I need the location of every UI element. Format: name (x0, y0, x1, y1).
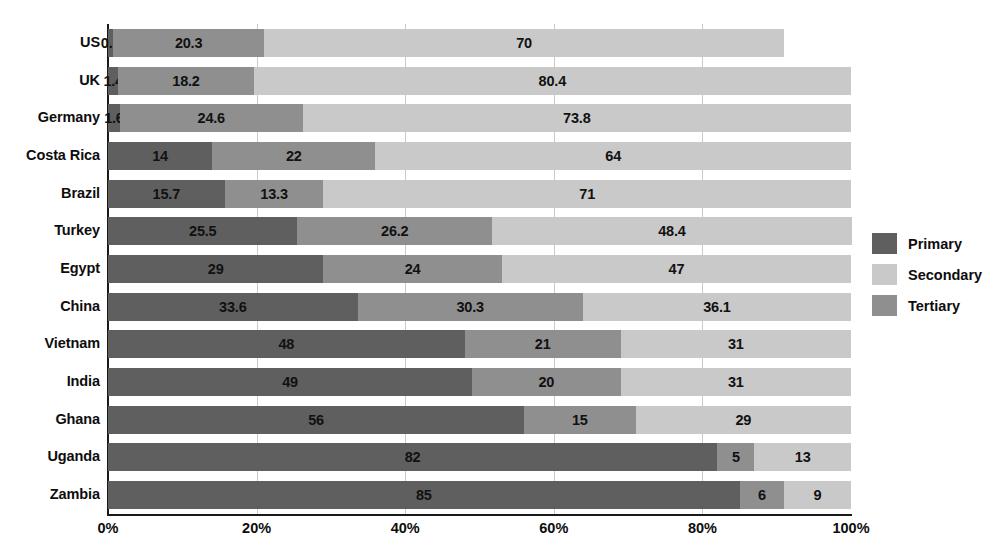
bar-segment-tertiary[interactable]: 47 (502, 255, 851, 283)
stacked-bar-chart: USUKGermanyCosta RicaBrazilTurkeyEgyptCh… (0, 0, 1008, 559)
legend-swatch-icon (872, 233, 897, 254)
legend-item[interactable]: Tertiary (872, 290, 1002, 321)
bar-segment-secondary[interactable]: 24 (323, 255, 501, 283)
bar-segment-value: 82 (405, 449, 421, 465)
x-axis-tick-label: 60% (539, 520, 568, 536)
plot-area: 0.720.3701.418.280.41.624.673.814226415.… (108, 24, 851, 514)
category-label: China (0, 298, 100, 314)
bar-segment-primary[interactable]: 48 (108, 330, 465, 358)
bar-segment-value: 48.4 (658, 223, 685, 239)
category-axis-labels: USUKGermanyCosta RicaBrazilTurkeyEgyptCh… (0, 24, 100, 514)
bar-segment-secondary[interactable]: 13.3 (225, 180, 324, 208)
bar-segment-value: 26.2 (381, 223, 408, 239)
bar-segment-tertiary[interactable]: 9 (784, 481, 851, 509)
bar-segment-value: 20 (538, 374, 554, 390)
bar-segment-primary[interactable]: 25.5 (108, 217, 297, 245)
bar-row[interactable]: 292447 (108, 255, 851, 283)
bar-segment-secondary[interactable]: 24.6 (120, 104, 303, 132)
bar-segment-tertiary[interactable]: 36.1 (583, 293, 851, 321)
bar-segment-secondary[interactable]: 5 (717, 443, 754, 471)
bar-row[interactable]: 1.624.673.8 (108, 104, 851, 132)
bar-segment-secondary[interactable]: 15 (524, 406, 635, 434)
bar-segment-primary[interactable]: 29 (108, 255, 323, 283)
bar-segment-value: 25.5 (189, 223, 216, 239)
bar-segment-tertiary[interactable]: 48.4 (492, 217, 852, 245)
bar-segment-secondary[interactable]: 6 (740, 481, 785, 509)
bar-segment-tertiary[interactable]: 73.8 (303, 104, 851, 132)
bar-row[interactable]: 142264 (108, 142, 851, 170)
legend-item[interactable]: Primary (872, 228, 1002, 259)
bar-row[interactable]: 82513 (108, 443, 851, 471)
bar-segment-value: 49 (282, 374, 298, 390)
bar-segment-value: 18.2 (172, 73, 199, 89)
x-axis-tick-label: 0% (98, 520, 119, 536)
bar-segment-value: 30.3 (456, 299, 483, 315)
x-axis-tick-label: 80% (688, 520, 717, 536)
bar-segment-value: 31 (728, 374, 744, 390)
bar-segment-secondary[interactable]: 20.3 (113, 29, 264, 57)
bar-segment-value: 13.3 (260, 186, 287, 202)
bar-segment-value: 36.1 (703, 299, 730, 315)
bar-segment-secondary[interactable]: 30.3 (358, 293, 583, 321)
bar-segment-tertiary[interactable]: 31 (621, 330, 851, 358)
bar-row[interactable]: 0.720.370 (108, 29, 851, 57)
legend-swatch-icon (872, 264, 897, 285)
bar-segment-value: 21 (535, 336, 551, 352)
bar-segment-tertiary[interactable]: 64 (375, 142, 851, 170)
category-label: Zambia (0, 486, 100, 502)
category-label: Costa Rica (0, 147, 100, 163)
bar-segment-value: 33.6 (219, 299, 246, 315)
bar-segment-tertiary[interactable]: 70 (264, 29, 784, 57)
category-label: Vietnam (0, 335, 100, 351)
category-label: Egypt (0, 260, 100, 276)
bar-segment-value: 9 (814, 487, 822, 503)
legend-label: Secondary (908, 267, 982, 283)
bar-segment-value: 6 (758, 487, 766, 503)
bar-segment-value: 31 (728, 336, 744, 352)
legend-swatch-icon (872, 295, 897, 316)
bar-segment-value: 48 (278, 336, 294, 352)
bar-segment-tertiary[interactable]: 13 (754, 443, 851, 471)
bar-segment-secondary[interactable]: 20 (472, 368, 621, 396)
bar-segment-primary[interactable]: 33.6 (108, 293, 358, 321)
bar-segment-tertiary[interactable]: 71 (323, 180, 851, 208)
category-label: US (0, 34, 100, 50)
bar-segment-primary[interactable]: 15.7 (108, 180, 225, 208)
bar-segment-value: 24 (405, 261, 421, 277)
bar-segment-secondary[interactable]: 18.2 (118, 67, 253, 95)
bar-segment-value: 80.4 (539, 73, 566, 89)
bar-segment-primary[interactable]: 82 (108, 443, 717, 471)
bar-segment-primary[interactable]: 49 (108, 368, 472, 396)
bar-segment-tertiary[interactable]: 80.4 (254, 67, 851, 95)
bar-row[interactable]: 1.418.280.4 (108, 67, 851, 95)
legend-item[interactable]: Secondary (872, 259, 1002, 290)
bar-row[interactable]: 492031 (108, 368, 851, 396)
bar-segment-primary[interactable]: 85 (108, 481, 740, 509)
bar-segment-primary[interactable]: 56 (108, 406, 524, 434)
bar-segment-tertiary[interactable]: 31 (621, 368, 851, 396)
bar-segment-value: 14 (152, 148, 168, 164)
bar-segment-value: 24.6 (198, 110, 225, 126)
bar-segment-value: 47 (669, 261, 685, 277)
bar-row[interactable]: 25.526.248.4 (108, 217, 851, 245)
category-label: Turkey (0, 222, 100, 238)
bar-segment-secondary[interactable]: 22 (212, 142, 375, 170)
bar-segment-tertiary[interactable]: 29 (636, 406, 851, 434)
x-axis-line (107, 514, 852, 516)
bar-segment-primary[interactable]: 14 (108, 142, 212, 170)
bar-segment-secondary[interactable]: 26.2 (297, 217, 492, 245)
bar-segment-secondary[interactable]: 21 (465, 330, 621, 358)
bar-segment-value: 85 (416, 487, 432, 503)
bar-row[interactable]: 15.713.371 (108, 180, 851, 208)
bar-row[interactable]: 482131 (108, 330, 851, 358)
bar-row[interactable]: 8569 (108, 481, 851, 509)
legend-label: Tertiary (908, 298, 960, 314)
bar-segment-primary[interactable]: 1.6 (108, 104, 120, 132)
bar-row[interactable]: 33.630.336.1 (108, 293, 851, 321)
bar-row[interactable]: 561529 (108, 406, 851, 434)
category-label: India (0, 373, 100, 389)
bar-segment-value: 13 (795, 449, 811, 465)
category-label: UK (0, 72, 100, 88)
bar-segment-primary[interactable]: 1.4 (108, 67, 118, 95)
legend: PrimarySecondaryTertiary (872, 228, 1002, 321)
